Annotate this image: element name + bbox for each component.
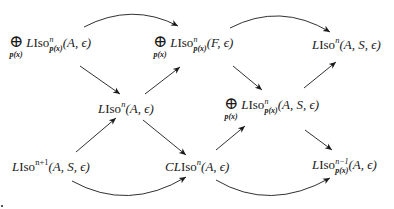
arrow-n6-to-n7 xyxy=(72,177,186,196)
node-liso-n-minus-1-p-A: LIson−1p(x)(A, ϵ) xyxy=(312,158,377,175)
node-liso-A-S: LIson(A, S, ϵ) xyxy=(312,38,381,51)
commutative-diagram: ⊕ p(x) LIsonp(x)(A, ϵ) ⊕ p(x) LIsonp(x)(… xyxy=(0,0,394,209)
arrow-n1-to-n4 xyxy=(80,66,120,94)
node-direct-sum-liso-p-F: ⊕ p(x) LIsonp(x)(F, ϵ) xyxy=(153,36,233,62)
oplus-icon: ⊕ xyxy=(224,95,238,112)
node-direct-sum-liso-p-A: ⊕ p(x) LIsonp(x)(A, ϵ) xyxy=(9,36,91,62)
arrow-n5-to-n8 xyxy=(305,130,332,150)
diagram-arrows xyxy=(0,0,394,209)
arrow-n2-to-n3 xyxy=(230,16,330,32)
arrow-n2-to-n5 xyxy=(233,66,262,90)
arrow-n5-to-n3 xyxy=(304,62,336,88)
arrow-n6-to-n4 xyxy=(76,118,116,152)
node-liso-A: LIson(A, ϵ) xyxy=(98,102,154,115)
node-cliso-A: CLIson(A, ϵ) xyxy=(165,160,229,173)
direct-sum-operator: ⊕ p(x) xyxy=(9,33,23,59)
node-liso-n-plus-1-A-S: LIson+1(A, S, ϵ) xyxy=(12,160,90,173)
node-direct-sum-liso-p-A-S: ⊕ p(x) LIsonp(x)(A, S, ϵ) xyxy=(224,98,319,124)
arrow-n1-to-n2 xyxy=(84,14,178,27)
direct-sum-operator: ⊕ p(x) xyxy=(224,95,238,121)
arrow-n7-to-n8 xyxy=(216,178,330,196)
oplus-icon: ⊕ xyxy=(153,33,167,50)
oplus-icon: ⊕ xyxy=(9,33,23,50)
direct-sum-operator: ⊕ p(x) xyxy=(153,33,167,59)
arrow-n4-to-n7 xyxy=(143,120,186,155)
stray-mark xyxy=(1,205,3,207)
arrow-n4-to-n2 xyxy=(145,67,180,94)
arrow-n7-to-n5 xyxy=(216,126,245,150)
